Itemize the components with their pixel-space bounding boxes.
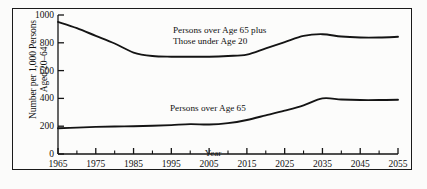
x-tick-label: 1995 <box>162 159 181 169</box>
x-tick-label: 2005 <box>200 159 219 169</box>
y-tick-label: 200 <box>40 121 54 131</box>
x-tick-label: 2025 <box>275 159 294 169</box>
annotation-upper-line1: Persons over Age 65 plus <box>173 25 266 35</box>
annotation-lower-series: Persons over Age 65 <box>170 103 246 114</box>
figure-container: Number per 1,000 Persons Aged 20–64 Year… <box>0 0 427 189</box>
x-tick-label: 2055 <box>389 159 408 169</box>
plot-area: 02004006008001000 1965197519851995200520… <box>58 15 398 154</box>
y-axis-title-line1: Number per 1,000 Persons <box>28 20 38 119</box>
y-tick-label: 600 <box>40 66 54 76</box>
y-tick-label: 1000 <box>35 10 54 20</box>
y-tick-label: 800 <box>40 38 54 48</box>
y-tick-label: 400 <box>40 93 54 103</box>
x-tick-label: 2035 <box>313 159 332 169</box>
annotation-upper-line2: Those under Age 20 <box>173 36 247 46</box>
x-tick-label: 1975 <box>86 159 105 169</box>
x-tick-label: 1965 <box>49 159 68 169</box>
y-tick-marks <box>58 15 64 154</box>
chart-frame: Number per 1,000 Persons Aged 20–64 Year… <box>12 8 412 170</box>
annotation-lower-line1: Persons over Age 65 <box>170 103 246 113</box>
annotation-upper-series: Persons over Age 65 plus Those under Age… <box>173 25 266 47</box>
x-tick-label: 2045 <box>351 159 370 169</box>
y-tick-label: 0 <box>49 149 54 159</box>
x-tick-label: 2015 <box>237 159 256 169</box>
x-tick-label: 1985 <box>124 159 143 169</box>
